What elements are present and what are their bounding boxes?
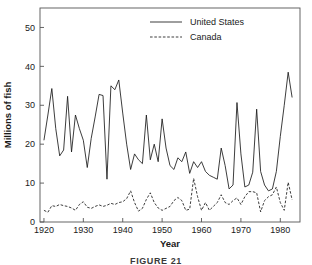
plot-frame	[40, 8, 300, 222]
x-axis-title: Year	[160, 238, 180, 249]
x-axis-tick-label: 1970	[231, 225, 251, 235]
x-axis-tick-label: 1930	[73, 225, 93, 235]
series-line-canada	[44, 178, 292, 212]
series-line-united-states	[44, 72, 292, 191]
x-axis-tick-label: 1940	[113, 225, 133, 235]
fish-catch-line-chart: 010203040501920193019401950196019701980Y…	[0, 0, 312, 265]
legend-label-united-states: United States	[190, 17, 245, 27]
figure-caption: FIGURE 21	[0, 256, 312, 265]
y-axis-tick-label: 40	[25, 62, 35, 72]
x-axis-tick-label: 1950	[152, 225, 172, 235]
x-axis-tick-label: 1960	[191, 225, 211, 235]
figure-container: 010203040501920193019401950196019701980Y…	[0, 0, 312, 265]
y-axis-title: Millions of fish	[2, 82, 13, 149]
y-axis-tick-label: 50	[25, 23, 35, 33]
x-axis-tick-label: 1980	[270, 225, 290, 235]
legend-label-canada: Canada	[190, 32, 222, 42]
y-axis-tick-label: 20	[25, 139, 35, 149]
x-axis-tick-label: 1920	[34, 225, 54, 235]
y-axis-tick-label: 30	[25, 100, 35, 110]
y-axis-tick-label: 10	[25, 178, 35, 188]
